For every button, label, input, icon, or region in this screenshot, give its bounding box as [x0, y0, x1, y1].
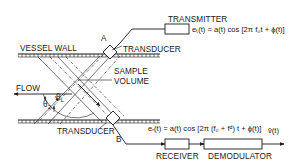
received-signal-equation: eᵣ(t) = a(t) cos [2π (f₀ + fᵈ) t + ϕ(t)]: [148, 124, 261, 133]
vessel-wall-bottom: [18, 120, 160, 123]
transmit-beam: [34, 50, 120, 124]
transmitter-block: [165, 24, 189, 34]
theta-2-label: θ2: [43, 100, 52, 110]
vessel-wall-top: [18, 54, 160, 57]
output-velocity-label: v̂(t): [268, 126, 280, 135]
demodulator-block: [204, 139, 262, 149]
receive-beam: [38, 57, 124, 122]
demodulator-label: DEMODULATOR: [208, 152, 272, 161]
point-b-label: B: [116, 135, 122, 144]
receiver-label: RECEIVER: [156, 152, 199, 161]
point-a-label: A: [101, 34, 107, 43]
flow-label: FLOW: [16, 84, 40, 93]
sample-volume-label-line2: VOLUME: [114, 77, 150, 86]
doppler-flow-diagram: TRANSMITTER eₜ(t) = a(t) cos [2π f₀t + ϕ…: [0, 0, 301, 163]
sample-volume-label-line1: SAMPLE: [114, 67, 148, 76]
vessel-wall-label: VESSEL WALL: [20, 44, 77, 53]
receiver-block: [165, 139, 189, 149]
transducer-bottom-label: TRANSDUCER: [57, 127, 115, 136]
transducer-top-label: TRANSDUCER: [123, 45, 181, 54]
theta-l-label: θL: [56, 93, 65, 103]
transmitter-label: TRANSMITTER: [168, 15, 227, 24]
transmitted-signal-equation: eₜ(t) = a(t) cos [2π f₀t + ϕ(t)]: [192, 25, 285, 34]
transmit-wire: [120, 29, 165, 43]
